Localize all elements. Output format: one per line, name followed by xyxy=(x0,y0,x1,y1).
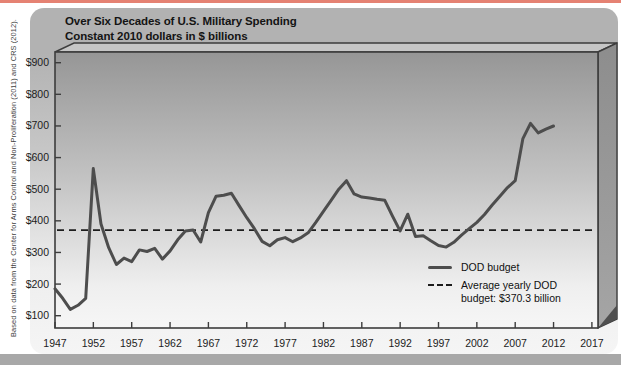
plot-top-face xyxy=(55,43,617,52)
y-axis-label: $600 xyxy=(26,151,50,163)
legend-row-dod: DOD budget xyxy=(428,261,578,275)
x-axis-label: 2007 xyxy=(504,337,528,349)
x-axis-label: 2017 xyxy=(580,337,604,349)
legend: DOD budget Average yearly DOD budget: $3… xyxy=(428,261,578,310)
x-axis-label: 1947 xyxy=(43,337,67,349)
source-note: Based on data from the Center for Arms C… xyxy=(0,3,26,354)
military-spending-chart: $100$200$300$400$500$600$700$800$900 194… xyxy=(0,0,621,365)
y-axis-label: $300 xyxy=(26,246,50,258)
y-axis-label: $500 xyxy=(26,183,50,195)
plot-right-face xyxy=(598,43,617,328)
x-axis-label: 1967 xyxy=(197,337,221,349)
x-axis-label: 1962 xyxy=(158,337,182,349)
y-axis-label: $400 xyxy=(26,214,50,226)
x-axis-label: 1952 xyxy=(82,337,106,349)
bottom-band xyxy=(0,354,621,365)
y-axis-label: $800 xyxy=(26,88,50,100)
x-axis-label: 1997 xyxy=(427,337,451,349)
x-axis-label: 2012 xyxy=(542,337,566,349)
chart-title: Over Six Decades of U.S. Military Spendi… xyxy=(65,14,297,29)
x-axis-label: 1982 xyxy=(312,337,336,349)
legend-row-average: Average yearly DOD budget: $370.3 billio… xyxy=(428,279,578,306)
legend-dod-label: DOD budget xyxy=(461,261,519,275)
x-axis-label: 1992 xyxy=(388,337,412,349)
x-axis-label: 1972 xyxy=(235,337,259,349)
dod-line-swatch xyxy=(428,266,452,269)
y-axis-label: $700 xyxy=(26,119,50,131)
chart-header: Over Six Decades of U.S. Military Spendi… xyxy=(65,14,297,44)
y-axis-label: $900 xyxy=(26,56,50,68)
x-axis-label: 2002 xyxy=(465,337,489,349)
x-axis-label: 1977 xyxy=(273,337,297,349)
legend-average-label: Average yearly DOD budget: $370.3 billio… xyxy=(461,279,573,306)
y-axis-label: $100 xyxy=(26,309,50,321)
average-line-swatch xyxy=(428,284,452,286)
x-axis-label: 1957 xyxy=(120,337,144,349)
x-axis-label: 1987 xyxy=(350,337,374,349)
figure-page: $100$200$300$400$500$600$700$800$900 194… xyxy=(0,0,621,365)
chart-subtitle: Constant 2010 dollars in $ billions xyxy=(65,29,297,44)
y-axis-label: $200 xyxy=(26,278,50,290)
